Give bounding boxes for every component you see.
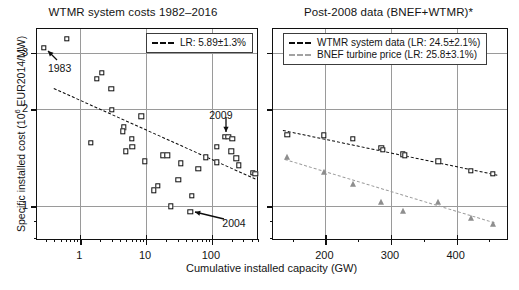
x-tick-label: 300	[381, 249, 399, 261]
y-tick-label: 2	[10, 102, 28, 114]
legend-key-line	[152, 42, 174, 44]
chart-legend: WTMR system data (LR: 24.5±2.1%)BNEF tur…	[283, 33, 487, 65]
data-point	[94, 76, 99, 81]
y-tick-label: 1	[10, 199, 28, 211]
legend-entry-label: BNEF turbine price (LR: 25.8±3.1%)	[317, 49, 477, 61]
annotation-arrow	[188, 205, 231, 226]
data-point	[234, 155, 239, 160]
data-point	[88, 140, 93, 145]
legend-key-line	[289, 42, 311, 44]
right-chart-panel: Post-2008 data (BNEF+WTMR)* WTMR system …	[262, 0, 519, 290]
data-point	[435, 199, 441, 205]
x-tick-label: 100	[202, 249, 220, 261]
data-point	[380, 147, 385, 152]
legend-entry-label: WTMR system data (LR: 24.5±2.1%)	[317, 37, 480, 49]
data-point	[178, 160, 183, 165]
y-tick-label: 3	[10, 46, 28, 58]
data-point	[139, 114, 144, 119]
data-point	[108, 86, 113, 91]
data-point	[189, 193, 194, 198]
x-tick-label: 400	[446, 249, 464, 261]
data-point	[203, 154, 208, 159]
legend-entry: WTMR system data (LR: 24.5±2.1%)	[289, 37, 480, 49]
data-point	[151, 188, 156, 193]
data-point	[214, 144, 219, 149]
left-panel-title: WTMR system costs 1982–2016	[10, 6, 256, 18]
data-point	[99, 70, 104, 75]
x-tick-label: 200	[315, 249, 333, 261]
x-tick-label: 10	[139, 249, 151, 261]
figure-root: WTMR system costs 1982–2016 Specific ins…	[0, 0, 519, 290]
left-plot-area: LR: 5.89±1.3%198320092004	[36, 28, 258, 240]
legend-entry: LR: 5.89±1.3%	[152, 37, 246, 49]
legend-entry: BNEF turbine price (LR: 25.8±3.1%)	[289, 49, 480, 61]
data-point	[490, 171, 495, 176]
data-point	[285, 132, 290, 137]
data-point	[490, 221, 496, 227]
data-point	[176, 177, 181, 182]
data-point	[284, 154, 290, 160]
legend-entry-label: LR: 5.89±1.3%	[180, 37, 246, 49]
data-point	[402, 152, 407, 157]
data-point	[350, 136, 355, 141]
data-point	[120, 128, 125, 133]
data-point	[130, 144, 135, 149]
left-chart-panel: WTMR system costs 1982–2016 Specific ins…	[0, 0, 262, 290]
annotation-arrow	[41, 44, 64, 67]
data-point	[321, 168, 327, 174]
right-panel-title: Post-2008 data (BNEF+WTMR)*	[266, 6, 511, 18]
right-plot-area: WTMR system data (LR: 24.5±2.1%)BNEF tur…	[272, 28, 508, 240]
data-point	[350, 181, 356, 187]
data-point	[435, 158, 440, 163]
data-point	[123, 149, 128, 154]
data-point	[468, 168, 473, 173]
data-point	[214, 159, 219, 164]
data-point	[64, 36, 69, 41]
data-point	[142, 158, 147, 163]
data-point	[252, 171, 257, 176]
data-point	[321, 133, 326, 138]
x-axis-label: Cumulative installed capacity (GW)	[186, 262, 357, 274]
chart-legend: LR: 5.89±1.3%	[146, 33, 253, 53]
data-point	[165, 152, 170, 157]
data-point	[236, 163, 241, 168]
data-point	[468, 215, 474, 221]
y-axis-label-main: Specific installed cost (10	[15, 114, 27, 232]
data-point	[229, 149, 234, 154]
data-point	[129, 136, 134, 141]
data-point	[109, 107, 114, 112]
x-tick-label: 1	[76, 249, 82, 261]
data-point	[400, 207, 406, 213]
data-point	[168, 203, 173, 208]
data-point	[195, 166, 200, 171]
legend-key-line	[289, 54, 311, 56]
annotation-arrow	[219, 110, 233, 139]
data-point	[378, 199, 384, 205]
